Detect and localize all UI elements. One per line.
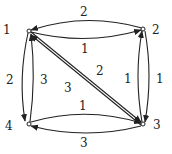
graph-edges	[0, 0, 172, 154]
edge-4-3	[31, 114, 141, 123]
edge-1-4	[22, 33, 28, 121]
edge-weight-1-2: 1	[81, 43, 89, 55]
edge-2-1	[31, 20, 142, 30]
node-label-2: 2	[152, 24, 160, 36]
edge-3-2	[138, 31, 142, 122]
node-label-1: 1	[3, 24, 11, 36]
edge-weight-3-2: 1	[124, 73, 132, 85]
node-label-4: 4	[5, 120, 13, 132]
node-2	[141, 27, 145, 31]
edge-2-3	[145, 31, 149, 122]
edge-1-2	[31, 30, 141, 39]
node-label-3: 3	[153, 119, 161, 131]
node-3	[141, 122, 145, 126]
edge-weight-3-4: 3	[80, 137, 88, 149]
edge-weight-1-4: 2	[6, 74, 14, 86]
edge-4-1	[30, 34, 33, 122]
weighted-digraph: 1 2 3 4 2 1 2 3 1 1 2 3 1 3	[0, 0, 172, 154]
edge-weight-2-1: 2	[80, 6, 88, 18]
edge-3-4	[31, 126, 141, 133]
edge-weight-1-3: 2	[96, 65, 104, 77]
edge-weight-4-3: 1	[79, 100, 87, 112]
edge-weight-2-3: 1	[156, 73, 164, 85]
edge-weight-4-1: 3	[40, 74, 48, 86]
node-1	[27, 29, 31, 33]
edge-weight-3-1: 3	[64, 82, 72, 94]
node-4	[27, 122, 31, 126]
